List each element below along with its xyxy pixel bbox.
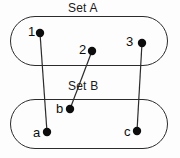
node-1-dot bbox=[36, 29, 44, 37]
set-mapping-diagram: Set A Set B 1 2 3 a b c bbox=[0, 0, 180, 158]
node-b-dot bbox=[66, 105, 74, 113]
node-2-dot bbox=[88, 47, 96, 55]
node-c-dot bbox=[133, 127, 141, 135]
edge-1-to-a bbox=[40, 33, 47, 132]
set-a-title: Set A bbox=[68, 1, 98, 15]
node-label-a: a bbox=[33, 126, 40, 139]
node-label-2: 2 bbox=[79, 43, 86, 56]
node-label-c: c bbox=[124, 125, 131, 138]
node-a-dot bbox=[43, 128, 51, 136]
edge-3-to-c bbox=[137, 43, 142, 131]
node-label-1: 1 bbox=[28, 25, 35, 38]
node-label-b: b bbox=[56, 102, 63, 115]
node-3-dot bbox=[138, 39, 146, 47]
set-b-boundary bbox=[11, 100, 168, 149]
set-b-title: Set B bbox=[68, 79, 98, 93]
node-label-3: 3 bbox=[126, 35, 133, 48]
